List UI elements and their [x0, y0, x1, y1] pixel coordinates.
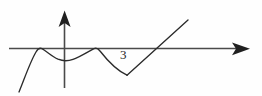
function-curve-smooth	[19, 48, 127, 92]
graph-figure: 3	[0, 0, 262, 96]
x-value-label-3: 3	[120, 47, 127, 62]
graph-canvas: 3	[0, 0, 262, 96]
function-curve-ray	[127, 20, 188, 75]
